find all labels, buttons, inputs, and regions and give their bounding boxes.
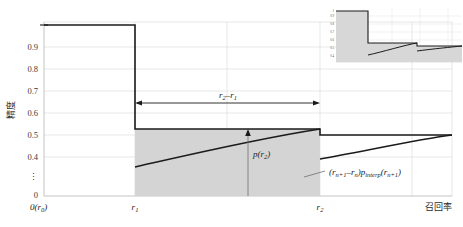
inset-chart: 1 0.9 0.8 0.7 0.6 0.5 0.4 [330,8,462,62]
y-tick-2: 0.7 [27,86,38,96]
y-tick-1: 0.8 [27,64,38,74]
shaded-area-r1-r2 [135,129,320,196]
x-axis-title: 召回率 [425,201,452,212]
figure-root: r2–r1 p(r2) (rn+1–rn)pinterp(rn+1) 0.9 0… [0,0,463,227]
inset-y-tick-5: 0.5 [330,46,334,50]
inset-shaded-area-b [368,43,417,62]
y-tick-0: 0.9 [27,42,38,52]
x-tick-r0: 0(r0) [30,202,47,213]
y-tick-5: 0.4 [27,152,38,162]
y-tick-3: 0.6 [27,108,38,118]
y-tick-4: 0.5 [27,130,38,140]
inset-y-tick-6: 0.4 [330,54,334,58]
y-axis-ticks: 0.9 0.8 0.7 0.6 0.5 0.4 ⋮ 0 [27,25,48,200]
x-tick-r2: r2 [317,202,325,213]
inset-y-tick-4: 0.6 [330,38,334,42]
interpolated-precision-step [44,25,452,135]
precision-recall-figure: r2–r1 p(r2) (rn+1–rn)pinterp(rn+1) 0.9 0… [0,0,463,227]
y-axis-title: 精度 [5,101,16,119]
inset-shaded-area-a [336,11,368,62]
span-arrow-r2-minus-r1 [135,101,320,106]
inset-y-tick-1: 0.9 [330,14,334,18]
y-tick-zero: 0 [34,190,38,200]
inset-y-tick-3: 0.7 [330,30,334,34]
inset-y-tick-0: 1 [332,9,334,13]
height-label-p-r2: p(r2) [252,149,270,160]
y-axis-break-glyph: ⋮ [29,172,38,182]
inset-y-tick-2: 0.8 [330,22,334,26]
raw-precision-curve-tail [320,135,452,159]
x-tick-r1: r1 [132,202,139,213]
area-formula-label: (rn+1–rn)pinterp(rn+1) [329,167,401,178]
span-label: r2–r1 [219,90,237,101]
